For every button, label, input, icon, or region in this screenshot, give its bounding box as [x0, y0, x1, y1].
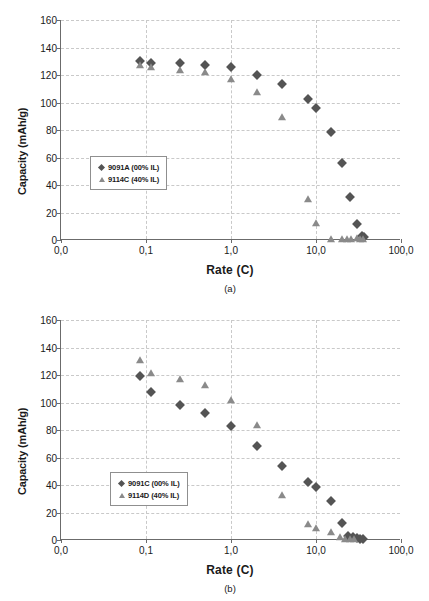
x-tick-mark: [61, 239, 62, 243]
gridline-vertical: [146, 20, 147, 239]
x-tick-label: 0,1: [139, 245, 153, 256]
y-tick-mark: [57, 320, 61, 321]
legend-label: 9091C (00% IL): [128, 479, 180, 488]
data-point-triangle: [136, 356, 144, 363]
data-point-triangle: [304, 196, 312, 203]
legend-a[interactable]: 9091A (00% IL) 9114C (40% IL): [90, 156, 167, 190]
y-tick-label: 20: [46, 207, 57, 218]
y-tick-label: 40: [46, 180, 57, 191]
y-tick-mark: [57, 48, 61, 49]
data-point-triangle: [278, 113, 286, 120]
y-tick-label: 120: [40, 70, 57, 81]
y-tick-mark: [57, 158, 61, 159]
data-point-diamond: [226, 62, 236, 72]
data-point-diamond: [326, 127, 336, 137]
gridline-vertical: [316, 320, 317, 539]
x-tick-label: 0,1: [139, 545, 153, 556]
gridline-vertical: [231, 20, 232, 239]
y-axis-title-a: Capacity (mAh/g): [16, 108, 28, 195]
x-tick-mark: [316, 239, 317, 243]
y-tick-label: 40: [46, 480, 57, 491]
x-tick-label: 0,0: [54, 245, 68, 256]
x-axis-title-a: Rate (C): [60, 263, 400, 277]
y-tick-mark: [57, 213, 61, 214]
gridline-horizontal: [61, 348, 400, 349]
data-point-triangle: [253, 88, 261, 95]
data-point-triangle: [147, 63, 155, 70]
y-tick-label: 100: [40, 97, 57, 108]
legend-item[interactable]: 9091C (00% IL): [116, 477, 180, 489]
data-point-diamond: [326, 496, 336, 506]
chart-panel-b: Capacity (mAh/g) 0204060801001201401600,…: [0, 300, 429, 600]
legend-label: 9114C (40% IL): [108, 175, 159, 184]
data-point-diamond: [277, 461, 287, 471]
data-point-diamond: [252, 441, 262, 451]
y-tick-label: 120: [40, 370, 57, 381]
y-tick-label: 160: [40, 315, 57, 326]
legend-item[interactable]: 9114D (40% IL): [116, 489, 180, 501]
triangle-icon: [96, 177, 107, 182]
data-point-diamond: [311, 103, 321, 113]
y-tick-mark: [57, 513, 61, 514]
data-point-triangle: [253, 421, 261, 428]
x-tick-label: 100,0: [388, 245, 413, 256]
x-axis-title-b: Rate (C): [60, 563, 400, 577]
x-tick-label: 0,0: [54, 545, 68, 556]
figure: Capacity (mAh/g) 0204060801001201401600,…: [0, 0, 429, 600]
data-point-triangle: [350, 535, 358, 542]
data-point-triangle: [312, 219, 320, 226]
y-tick-label: 0: [51, 535, 57, 546]
data-point-triangle: [359, 235, 367, 242]
y-tick-label: 80: [46, 425, 57, 436]
data-point-diamond: [345, 192, 355, 202]
data-point-triangle: [227, 75, 235, 82]
x-tick-mark: [401, 539, 402, 543]
gridline-vertical: [316, 20, 317, 239]
gridline-horizontal: [61, 48, 400, 49]
plot-area-a: 0204060801001201401600,00,11,010,0100,0: [60, 20, 400, 240]
y-tick-label: 100: [40, 397, 57, 408]
data-point-triangle: [327, 235, 335, 242]
y-tick-label: 20: [46, 507, 57, 518]
x-tick-mark: [401, 239, 402, 243]
y-tick-mark: [57, 458, 61, 459]
gridline-horizontal: [61, 20, 400, 21]
diamond-icon: [96, 165, 107, 170]
y-tick-label: 140: [40, 42, 57, 53]
data-point-diamond: [337, 518, 347, 528]
data-point-diamond: [352, 219, 362, 229]
y-tick-mark: [57, 75, 61, 76]
x-tick-mark: [316, 539, 317, 543]
gridline-vertical: [146, 320, 147, 539]
data-point-diamond: [175, 400, 185, 410]
x-tick-mark: [146, 239, 147, 243]
panel-caption-a: (a): [60, 283, 400, 294]
y-axis-title-b: Capacity (mAh/g): [16, 408, 28, 495]
x-tick-label: 1,0: [224, 545, 238, 556]
data-point-diamond: [252, 70, 262, 80]
data-point-triangle: [201, 68, 209, 75]
gridline-horizontal: [61, 213, 400, 214]
gridline-horizontal: [61, 320, 400, 321]
legend-b[interactable]: 9091C (00% IL) 9114D (40% IL): [110, 472, 188, 506]
data-point-triangle: [201, 381, 209, 388]
y-tick-label: 60: [46, 152, 57, 163]
data-point-triangle: [327, 528, 335, 535]
gridline-horizontal: [61, 513, 400, 514]
x-tick-mark: [231, 239, 232, 243]
gridline-horizontal: [61, 130, 400, 131]
diamond-icon: [116, 481, 127, 486]
data-point-diamond: [337, 158, 347, 168]
data-point-diamond: [135, 371, 145, 381]
x-tick-label: 10,0: [306, 545, 325, 556]
data-point-diamond: [277, 79, 287, 89]
data-point-diamond: [303, 94, 313, 104]
y-tick-mark: [57, 430, 61, 431]
legend-item[interactable]: 9091A (00% IL): [96, 161, 159, 173]
y-tick-label: 80: [46, 125, 57, 136]
y-tick-mark: [57, 103, 61, 104]
y-tick-mark: [57, 485, 61, 486]
data-point-triangle: [136, 62, 144, 69]
legend-item[interactable]: 9114C (40% IL): [96, 173, 159, 185]
data-point-triangle: [176, 66, 184, 73]
